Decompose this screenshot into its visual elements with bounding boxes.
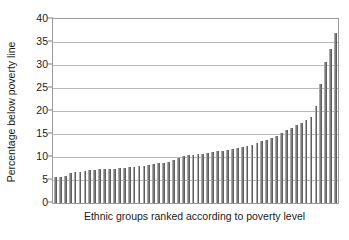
bar bbox=[172, 160, 175, 203]
bar bbox=[251, 145, 254, 203]
bar bbox=[84, 171, 87, 203]
bar bbox=[162, 163, 165, 203]
bar bbox=[241, 147, 244, 203]
bar bbox=[128, 167, 131, 203]
bar bbox=[211, 152, 214, 203]
bar bbox=[64, 176, 67, 203]
bar bbox=[280, 133, 283, 203]
bar bbox=[275, 136, 278, 203]
y-tick-label: 35 bbox=[36, 36, 48, 46]
plot-area bbox=[52, 18, 339, 204]
bar bbox=[260, 141, 263, 203]
bar bbox=[265, 140, 268, 203]
bar bbox=[93, 170, 96, 203]
bar bbox=[305, 120, 308, 203]
bar bbox=[118, 168, 121, 203]
bar bbox=[290, 128, 293, 203]
bar bbox=[167, 162, 170, 203]
bar bbox=[206, 153, 209, 203]
bar bbox=[324, 62, 327, 203]
bar bbox=[236, 148, 239, 203]
y-tick-label: 20 bbox=[36, 105, 48, 115]
bar bbox=[103, 169, 106, 203]
bar bbox=[192, 155, 195, 203]
y-axis-label: Percentage below poverty line bbox=[3, 19, 19, 205]
poverty-bar-chart: Percentage below poverty line 0510152025… bbox=[0, 0, 349, 240]
bar bbox=[79, 172, 82, 203]
y-tick-label: 30 bbox=[36, 59, 48, 69]
bar bbox=[329, 49, 332, 203]
bar bbox=[246, 146, 249, 203]
bar bbox=[270, 138, 273, 203]
bar bbox=[113, 169, 116, 204]
bar bbox=[182, 156, 185, 203]
bar bbox=[221, 151, 224, 203]
bar bbox=[201, 154, 204, 203]
bar bbox=[123, 168, 126, 203]
bar bbox=[216, 151, 219, 203]
bar bbox=[74, 172, 77, 203]
bar bbox=[231, 149, 234, 203]
bar bbox=[285, 130, 288, 203]
bar bbox=[108, 169, 111, 203]
bar bbox=[226, 150, 229, 203]
bar bbox=[300, 123, 303, 203]
y-tick-label: 10 bbox=[36, 151, 48, 161]
bar bbox=[187, 155, 190, 203]
bar bbox=[98, 169, 101, 203]
bar bbox=[310, 117, 313, 203]
bar bbox=[177, 158, 180, 203]
bar bbox=[295, 125, 298, 203]
bar bbox=[54, 177, 57, 203]
y-tick-label: 40 bbox=[36, 13, 48, 23]
bar bbox=[133, 167, 136, 203]
bar bbox=[152, 164, 155, 203]
bar bbox=[143, 166, 146, 203]
bar bbox=[138, 166, 141, 203]
bar bbox=[319, 84, 322, 203]
bar bbox=[256, 143, 259, 203]
y-axis-tick-labels: 0510152025303540 bbox=[26, 0, 48, 240]
bar bbox=[315, 106, 318, 203]
bar bbox=[59, 177, 62, 203]
bar bbox=[147, 165, 150, 203]
bar bbox=[88, 170, 91, 203]
y-tick-label: 25 bbox=[36, 82, 48, 92]
bar bbox=[334, 33, 337, 203]
bar bbox=[69, 173, 72, 203]
x-axis-label: Ethnic groups ranked according to povert… bbox=[52, 210, 337, 222]
bar bbox=[157, 163, 160, 203]
bar-series bbox=[53, 19, 338, 203]
bar bbox=[197, 154, 200, 203]
y-tick-label: 15 bbox=[36, 128, 48, 138]
